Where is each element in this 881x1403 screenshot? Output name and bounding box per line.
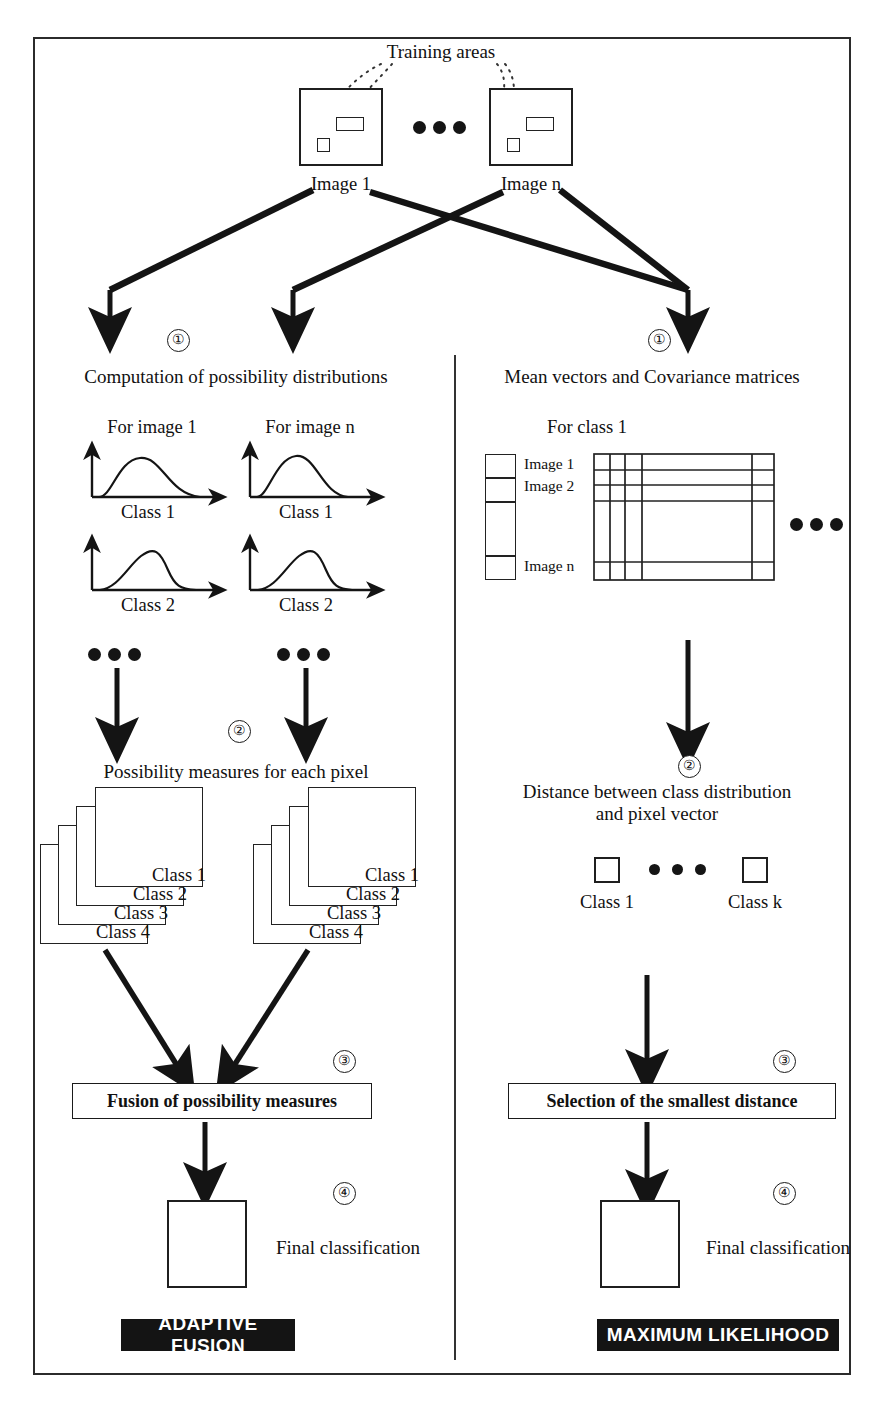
figure-root: Training areas Image 1 Image n <box>0 0 881 1403</box>
maximum-likelihood-banner: MAXIMUM LIKELIHOOD <box>597 1319 839 1351</box>
right-final-classification-label: Final classification <box>706 1238 850 1257</box>
right-final-arrow <box>0 0 881 1403</box>
step-marker-4-right: ④ <box>773 1182 796 1205</box>
right-final-classification-image <box>600 1200 680 1288</box>
